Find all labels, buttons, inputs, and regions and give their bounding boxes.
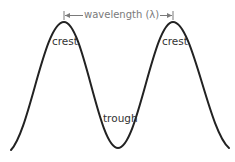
crest-label-right: crest [162,36,188,47]
arrowhead-right-icon [167,13,172,18]
wave-diagram [0,0,235,162]
crest-label-left: crest [52,36,78,47]
trough-label: trough [103,113,138,124]
wavelength-label: wavelength (λ) [83,10,160,20]
wave-curve [11,22,229,150]
arrowhead-left-icon [65,13,70,18]
